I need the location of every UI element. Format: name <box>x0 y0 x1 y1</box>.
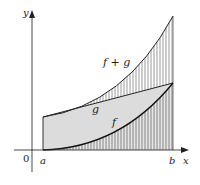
interval-b-label: b <box>169 155 175 166</box>
diagram-canvas: y x 0 a b f + g g f <box>0 0 200 185</box>
x-axis-label: x <box>183 155 189 166</box>
x-axis-arrow-icon <box>181 147 189 153</box>
interval-a-label: a <box>40 155 46 166</box>
origin-label: 0 <box>23 153 29 164</box>
line-g-label: g <box>92 103 99 116</box>
y-axis-label: y <box>22 7 29 18</box>
y-axis-arrow-icon <box>29 10 35 18</box>
curve-f-plus-g-label: f + g <box>102 56 130 69</box>
